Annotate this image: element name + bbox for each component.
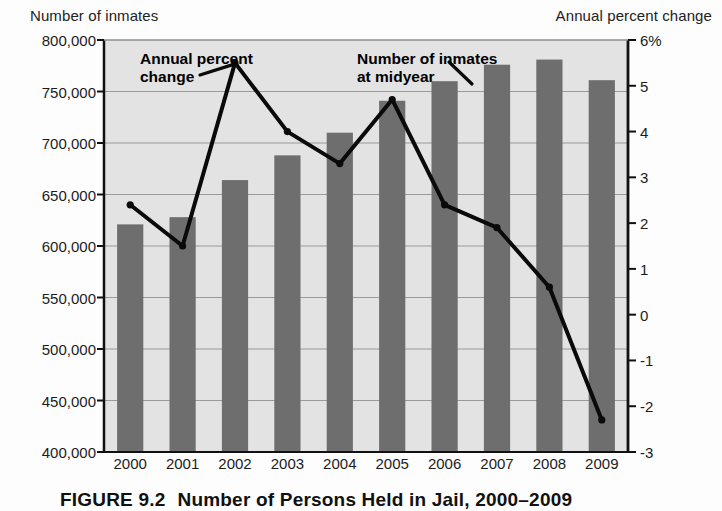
left-axis-tick-label: 450,000 <box>42 392 96 409</box>
left-axis-tick-label: 550,000 <box>42 289 96 306</box>
annotation-number-of-inmates: Number of inmates at midyear <box>357 50 497 86</box>
right-axis-tick-label: 6% <box>640 32 662 49</box>
figure-caption: FIGURE 9.2Number of Persons Held in Jail… <box>60 489 572 511</box>
left-axis-tick-label: 400,000 <box>42 444 96 461</box>
right-axis-title: Annual percent change <box>556 7 712 24</box>
left-axis-tick-labels: 400,000450,000500,000550,000600,000650,0… <box>0 40 96 452</box>
annotation-annual-percent-change: Annual percent change <box>140 50 253 86</box>
line-data-point[interactable] <box>284 128 291 135</box>
bar[interactable] <box>327 133 353 452</box>
x-axis-tick-label: 2001 <box>166 455 199 472</box>
x-axis-tick-label: 2004 <box>323 455 356 472</box>
right-axis-tick-label: -3 <box>640 444 653 461</box>
left-axis-tick-label: 700,000 <box>42 135 96 152</box>
right-axis-tick-label: -2 <box>640 398 653 415</box>
bar[interactable] <box>432 81 458 452</box>
x-axis-tick-label: 2002 <box>218 455 251 472</box>
left-axis-tick-label: 500,000 <box>42 341 96 358</box>
right-axis-tick-label: 4 <box>640 123 648 140</box>
left-axis-tick-label: 800,000 <box>42 32 96 49</box>
right-axis-tick-label: 0 <box>640 306 648 323</box>
line-series-path[interactable] <box>130 63 602 420</box>
x-axis-tick-label: 2007 <box>480 455 513 472</box>
bar[interactable] <box>170 217 196 452</box>
line-data-point[interactable] <box>127 201 134 208</box>
right-axis-tick-labels: -3-2-10123456% <box>640 40 720 452</box>
bar[interactable] <box>117 224 143 452</box>
figure-container: Number of inmates Annual percent change … <box>0 0 722 511</box>
line-data-point[interactable] <box>441 201 448 208</box>
right-axis-tick-label: 2 <box>640 215 648 232</box>
bar[interactable] <box>222 180 248 452</box>
x-axis-tick-label: 2009 <box>585 455 618 472</box>
x-axis-tick-label: 2000 <box>114 455 147 472</box>
left-axis-tick-label: 750,000 <box>42 83 96 100</box>
figure-caption-label: FIGURE 9.2 <box>60 489 165 510</box>
line-data-point[interactable] <box>389 96 396 103</box>
plot-area <box>104 40 628 452</box>
line-data-point[interactable] <box>179 242 186 249</box>
bar[interactable] <box>484 65 510 452</box>
x-axis-tick-label: 2006 <box>428 455 461 472</box>
chart-graphics <box>104 40 628 452</box>
right-axis-tick-label: 3 <box>640 169 648 186</box>
right-axis-tick-label: 5 <box>640 77 648 94</box>
line-data-point[interactable] <box>546 284 553 291</box>
line-data-point[interactable] <box>493 224 500 231</box>
x-axis-tick-label: 2008 <box>533 455 566 472</box>
right-axis-tick-label: -1 <box>640 352 653 369</box>
bar[interactable] <box>379 101 405 452</box>
figure-caption-text: Number of Persons Held in Jail, 2000–200… <box>177 489 572 510</box>
bar[interactable] <box>274 155 300 452</box>
x-axis-tick-labels: 2000200120022003200420052006200720082009 <box>104 455 628 477</box>
right-axis-tick-label: 1 <box>640 260 648 277</box>
x-axis-tick-label: 2003 <box>271 455 304 472</box>
left-axis-tick-label: 650,000 <box>42 186 96 203</box>
left-axis-tick-label: 600,000 <box>42 238 96 255</box>
x-axis-tick-label: 2005 <box>376 455 409 472</box>
line-data-point[interactable] <box>598 416 605 423</box>
line-data-point[interactable] <box>336 160 343 167</box>
bar[interactable] <box>536 60 562 452</box>
left-axis-title: Number of inmates <box>30 7 158 24</box>
